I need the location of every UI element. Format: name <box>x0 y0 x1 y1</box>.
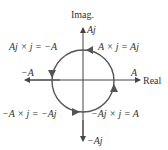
imag-axis-label: Imag. <box>71 9 94 20</box>
real-axis-label: Real <box>143 75 162 86</box>
rotation-label-bottom-left: −A × j = −Aj <box>2 108 57 119</box>
point-label-pos-imag: Aj <box>86 24 96 35</box>
rotation-label-top-right: A × j = Aj <box>97 41 139 52</box>
arrow-icon-right <box>110 84 118 92</box>
arrow-icon-bottom <box>72 108 80 116</box>
rotation-label-bottom-right: −Aj × j = A <box>91 108 140 119</box>
complex-plane-rotation-diagram: Imag. Real Aj −Aj A −A A × j = Aj Aj × j… <box>0 0 168 150</box>
arrow-icon-top <box>86 46 93 54</box>
arrow-icon-left <box>48 70 56 78</box>
point-label-pos-real: A <box>130 67 138 78</box>
point-label-neg-imag: −Aj <box>87 135 103 146</box>
rotation-label-top-left: Aj × j = −A <box>8 41 58 52</box>
point-label-neg-real: −A <box>21 67 35 78</box>
